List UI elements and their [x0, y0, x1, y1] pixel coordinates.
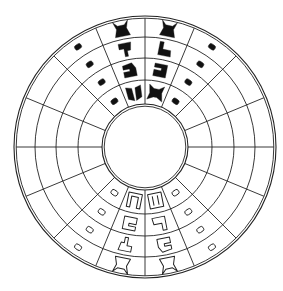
blob-glyph [184, 208, 193, 216]
circular-diagram: circular-wheel [0, 0, 283, 291]
horned-block-glyph [160, 256, 178, 274]
hook-block-glyph [153, 63, 168, 78]
blob-glyph [74, 243, 83, 251]
blob-glyph [97, 78, 106, 86]
boot-shape-glyph [118, 42, 133, 58]
notched-square-glyph [157, 237, 172, 253]
double-bar-glyph [148, 192, 164, 209]
spoke [175, 56, 236, 117]
u-bracket-glyph [126, 192, 142, 209]
horned-block-glyph [112, 20, 130, 38]
boot-shape-glyph [118, 236, 133, 252]
horned-block-glyph [160, 20, 178, 38]
blob-glyph [184, 78, 193, 86]
foot-shape-glyph [158, 41, 173, 57]
blob-glyph [97, 208, 106, 216]
split-crab-glyph [125, 85, 143, 102]
blob-glyph [171, 189, 180, 197]
blob-glyph [110, 189, 119, 197]
blob-glyph [208, 43, 217, 51]
spoke [175, 177, 236, 238]
inner-circle [102, 104, 188, 190]
blob-glyph [110, 97, 119, 105]
notched-square-glyph [122, 62, 137, 78]
spoke [96, 187, 129, 266]
spoke [26, 98, 105, 131]
spoke [54, 56, 115, 117]
blob-glyph [171, 97, 180, 105]
spoke [26, 163, 105, 196]
blob-glyph [196, 60, 205, 68]
spoke [185, 163, 264, 196]
hook-block-glyph [122, 216, 137, 231]
blob-glyph [208, 243, 217, 251]
blob-glyph [85, 226, 94, 234]
crossed-beast-glyph [147, 84, 165, 102]
foot-shape-glyph [152, 216, 167, 232]
wheel-svg [0, 0, 283, 291]
spoke [185, 98, 264, 131]
blob-glyph [85, 60, 94, 68]
blob-glyph [74, 43, 83, 51]
blob-glyph [196, 226, 205, 234]
spoke [54, 177, 115, 238]
horned-block-glyph [112, 256, 130, 274]
